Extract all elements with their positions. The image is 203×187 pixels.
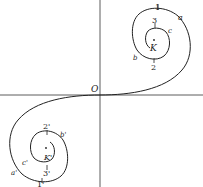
label-2: 2 bbox=[151, 63, 156, 72]
label-k-prime: K' bbox=[43, 153, 52, 162]
origin-label: O bbox=[91, 84, 99, 94]
label-c: c bbox=[168, 27, 172, 35]
upper-spiral-curve bbox=[100, 8, 190, 95]
cornu-spiral-diagram: O 1 3 a c K b 2 2' b' K' c' a' 3' 1' bbox=[0, 0, 203, 187]
label-b: b bbox=[133, 54, 138, 62]
label-3-prime: 3' bbox=[43, 169, 50, 178]
label-1-prime: 1' bbox=[37, 180, 44, 187]
label-c-prime: c' bbox=[22, 159, 28, 167]
label-1: 1 bbox=[155, 3, 160, 12]
label-k: K bbox=[149, 43, 158, 53]
label-a-prime: a' bbox=[11, 169, 17, 177]
label-a: a bbox=[178, 13, 183, 22]
point-k-prime bbox=[45, 147, 47, 149]
point-k bbox=[153, 39, 155, 41]
label-2-prime: 2' bbox=[43, 122, 50, 131]
label-3: 3 bbox=[152, 16, 157, 25]
label-b-prime: b' bbox=[60, 131, 66, 139]
lower-spiral-curve bbox=[10, 95, 100, 182]
